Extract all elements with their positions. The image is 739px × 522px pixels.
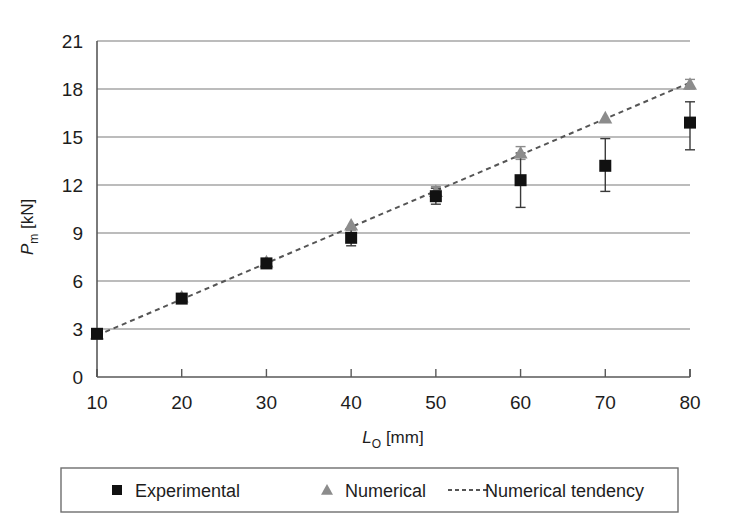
x-tick-label: 80 (679, 392, 700, 413)
y-axis-title-subscript: m (27, 234, 41, 244)
svg-text:Pm [kN]: Pm [kN] (18, 199, 41, 255)
experimental-square-marker (176, 293, 188, 305)
legend-item-label: Numerical (345, 481, 426, 501)
x-tick-label: 60 (510, 392, 531, 413)
chart-figure: 036912151821 1020304050607080 Pm [kN] LO… (0, 0, 739, 522)
x-tick-label: 30 (256, 392, 277, 413)
y-tick-label: 15 (62, 127, 83, 148)
experimental-square-marker (260, 257, 272, 269)
legend-item-label: Experimental (135, 481, 240, 501)
x-axis-title-unit: [mm] (381, 428, 424, 447)
experimental-square-marker (599, 160, 611, 172)
x-axis-title-symbol: L (362, 428, 371, 447)
x-tick-label: 10 (86, 392, 107, 413)
y-tick-label: 9 (72, 223, 83, 244)
y-axis-title-symbol: P (18, 243, 37, 255)
x-axis-title: LO [mm] (362, 428, 423, 451)
experimental-square-marker (515, 174, 527, 186)
x-tick-label: 40 (341, 392, 362, 413)
experimental-square-marker (684, 117, 696, 129)
legend-item-label: Numerical tendency (485, 481, 644, 501)
clipped-header-text (0, 0, 739, 7)
x-tick-label: 70 (595, 392, 616, 413)
y-tick-label: 18 (62, 79, 83, 100)
y-tick-label: 12 (62, 175, 83, 196)
experimental-square-marker (345, 232, 357, 244)
experimental-square-marker (430, 190, 442, 202)
x-tick-label: 50 (425, 392, 446, 413)
experimental-square-marker (91, 328, 103, 340)
y-tick-label: 0 (72, 367, 83, 388)
y-axis-title-unit: [kN] (18, 199, 37, 234)
y-axis-title: Pm [kN] (18, 199, 41, 255)
y-tick-label: 21 (62, 31, 83, 52)
y-tick-label: 6 (72, 271, 83, 292)
numerical-triangle-marker (598, 111, 612, 124)
x-tick-label: 20 (171, 392, 192, 413)
x-axis-tick-marks (97, 369, 690, 377)
legend-square-marker-icon (112, 485, 122, 495)
svg-text:LO [mm]: LO [mm] (362, 428, 423, 451)
horizontal-gridlines (97, 41, 690, 329)
x-axis-title-subscript: O (372, 437, 381, 451)
y-axis-tick-labels: 036912151821 (62, 31, 83, 388)
legend: ExperimentalNumericalNumerical tendency (61, 468, 678, 512)
scatter-plot-svg: 036912151821 1020304050607080 Pm [kN] LO… (0, 0, 739, 522)
y-tick-label: 3 (72, 319, 83, 340)
x-axis-tick-labels: 1020304050607080 (86, 392, 700, 413)
